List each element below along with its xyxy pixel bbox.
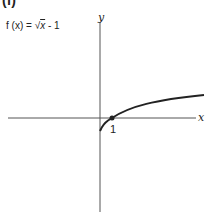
graph-canvas	[0, 0, 213, 212]
x-intercept-point	[110, 116, 115, 121]
tick-label-1: 1	[110, 124, 116, 135]
x-axis-label: x	[198, 112, 204, 123]
graph-figure: (f) f (x) = √x - 1 y x 1	[0, 0, 213, 212]
y-axis-label: y	[98, 12, 104, 23]
